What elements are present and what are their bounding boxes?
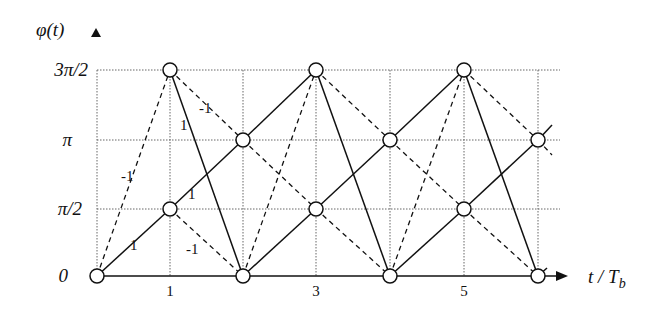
y-tick-pi-half: π/2 [58, 198, 83, 219]
node [309, 202, 323, 216]
node [457, 202, 471, 216]
edge-label: 1 [130, 237, 138, 253]
x-tick-5: 5 [460, 283, 468, 299]
trellis-nodes [90, 63, 545, 283]
dashed-edges [97, 70, 552, 276]
node [383, 269, 397, 283]
y-tick-3pi-half: 3π/2 [53, 59, 88, 80]
edge-label: -1 [121, 168, 134, 184]
edge-label: -1 [186, 241, 199, 257]
node [457, 63, 471, 77]
x-axis [97, 271, 568, 281]
node [531, 133, 545, 147]
node [90, 269, 104, 283]
node [163, 63, 177, 77]
y-tick-pi: π [62, 129, 72, 150]
edge-label: 1 [180, 117, 188, 133]
edge-label: 1 [188, 186, 196, 202]
node [236, 269, 250, 283]
phase-trellis-diagram: φ(t) t / Tb 0 π/2 π 3π/2 1 3 5 1 1 -1 -1… [0, 0, 655, 318]
node [236, 133, 250, 147]
node [531, 269, 545, 283]
x-axis-label: t / Tb [588, 266, 626, 291]
y-tick-0: 0 [59, 265, 69, 286]
solid-edges [97, 70, 552, 276]
edge-label: -1 [199, 100, 212, 116]
x-axis-arrow-icon [556, 271, 568, 281]
y-axis-label: φ(t) [36, 19, 64, 41]
x-tick-1: 1 [166, 283, 174, 299]
grid [97, 70, 560, 276]
node [309, 63, 323, 77]
node [383, 133, 397, 147]
y-axis-arrow-icon [91, 28, 101, 37]
x-tick-3: 3 [312, 283, 320, 299]
node [163, 202, 177, 216]
